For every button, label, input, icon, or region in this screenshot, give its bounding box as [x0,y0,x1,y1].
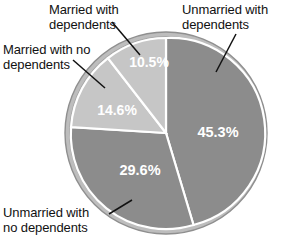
pie-value-married-with-dependents: 10.5% [129,54,169,70]
pie-chart-figure: 10.5% 14.6% 45.3% 29.6% Married with dep… [0,0,299,247]
pie-label-unmarried-with-no-dependents: Unmarried with no dependents [3,205,89,235]
pie-label-unmarried-with-dependents: Unmarried with dependents [182,2,268,32]
pie-value-unmarried-with-dependents: 45.3% [197,124,238,140]
pie-label-married-with-dependents: Married with dependents [49,2,119,32]
pie-label-married-with-no-dependents: Married with no dependents [3,42,90,72]
pie-value-married-with-no-dependents: 14.6% [97,102,137,118]
pie-value-unmarried-with-no-dependents: 29.6% [119,162,160,178]
